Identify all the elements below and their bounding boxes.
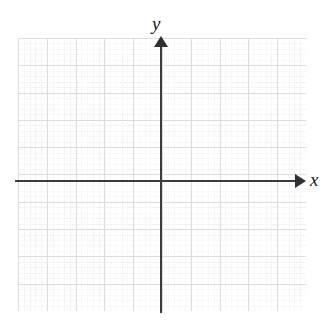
arrow-right-icon (295, 174, 306, 188)
x-axis-label: x (310, 170, 318, 189)
arrow-up-icon (154, 36, 168, 47)
grid-background (18, 38, 306, 311)
y-axis-label: y (152, 14, 160, 33)
coordinate-plane-figure: x y (0, 0, 329, 330)
y-axis-line (160, 45, 162, 313)
x-axis-line (15, 180, 298, 182)
